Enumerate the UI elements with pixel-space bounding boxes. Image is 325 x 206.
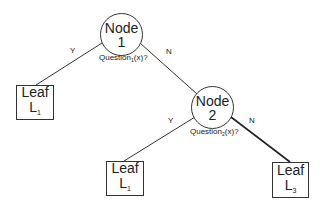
edge-node1-leaf-left <box>36 43 102 85</box>
leaf-left: Leaf L1 <box>16 85 54 120</box>
edge-node2-leaf-mid <box>124 117 195 161</box>
node-title: Node <box>196 94 229 108</box>
node1-question: Question1(x)? <box>99 53 148 63</box>
edge-label-y2: Y <box>168 116 173 125</box>
decision-node-1: Node 1 <box>100 13 143 56</box>
node-number: 1 <box>118 35 126 49</box>
node-number: 2 <box>209 108 217 122</box>
leaf-mid: Leaf L1 <box>106 161 144 196</box>
node-title: Node <box>105 21 138 35</box>
decision-node-2: Node 2 <box>191 86 234 129</box>
edge-label-y1: Y <box>70 46 75 55</box>
edge-label-n2: N <box>249 116 255 125</box>
leaf-right: Leaf L3 <box>272 162 309 198</box>
edge-node2-leaf-right <box>231 117 290 162</box>
node2-question: Question2(x)? <box>190 127 239 137</box>
edge-label-n1: N <box>166 47 172 56</box>
